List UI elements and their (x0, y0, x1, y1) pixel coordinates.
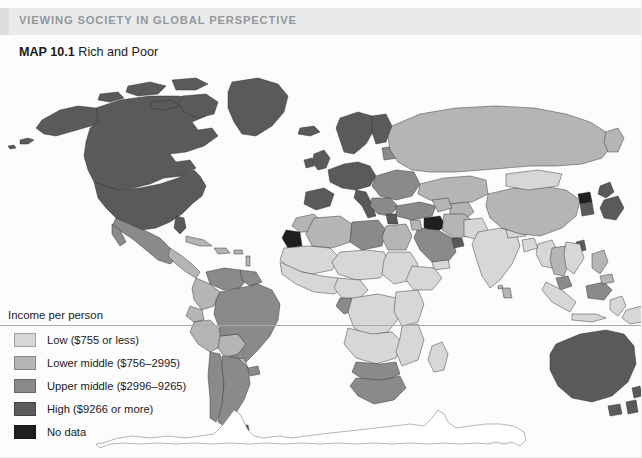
region-hispaniola (214, 248, 230, 254)
region-malaysia (556, 276, 572, 290)
region-mongolia (506, 170, 562, 190)
region-bangladesh (522, 238, 538, 252)
region-united-kingdom (312, 150, 330, 170)
region-mozambique-tanzania (396, 324, 424, 366)
region-malaysia-borneo (586, 282, 612, 300)
legend-label-lower-middle: Lower middle ($756–2995) (47, 357, 180, 369)
region-scandinavia (336, 112, 374, 154)
legend-label-upper-middle: Upper middle ($2996–9265) (47, 380, 186, 392)
region-algeria (306, 216, 352, 248)
region-philippines-south (600, 274, 614, 284)
map-number: MAP 10.1 (19, 45, 75, 59)
legend-item-lower-middle: Lower middle ($756–2995) (8, 351, 223, 374)
region-western-europe (328, 162, 376, 190)
map-legend: Income per person Low ($755 or less) Low… (8, 309, 223, 443)
legend-swatch-no-data (14, 425, 36, 439)
region-caucasus (432, 198, 452, 212)
region-japan-honshu (600, 196, 624, 220)
region-madagascar (428, 342, 448, 372)
region-south-africa (350, 376, 406, 404)
world-map: Income per person Low ($755 or less) Low… (0, 66, 642, 458)
legend-swatch-upper-middle (14, 379, 36, 393)
region-philippines (592, 250, 608, 274)
region-greenland (228, 78, 288, 136)
region-indonesia-sulawesi (610, 296, 626, 316)
region-uruguay (248, 366, 260, 376)
region-yemen (432, 260, 450, 270)
legend-item-no-data: No data (8, 420, 223, 443)
region-israel-levant (410, 220, 422, 230)
region-cuba (186, 236, 212, 246)
map-name-text: Rich and Poor (78, 45, 158, 59)
region-puerto-rico (234, 250, 243, 254)
region-egypt (382, 224, 412, 250)
region-vietnam-laos (564, 242, 584, 274)
legend-label-low: Low ($755 or less) (47, 334, 139, 346)
legend-heading: Income per person (8, 309, 223, 321)
region-eastern-europe (372, 170, 420, 200)
region-japan (598, 182, 614, 198)
region-iberia (304, 188, 334, 210)
legend-swatch-low (14, 333, 36, 347)
region-canada-arctic-2 (172, 78, 208, 90)
region-ireland (304, 158, 314, 168)
legend-swatch-lower-middle (14, 356, 36, 370)
region-canada-arctic-1 (126, 82, 166, 96)
region-lesser-antilles (246, 256, 250, 266)
region-iceland (298, 126, 320, 136)
header-band-accent-tab (0, 8, 9, 35)
region-new-zealand-south (626, 400, 638, 414)
region-russia (388, 106, 612, 172)
map-figure-page: VIEWING SOCIETY IN GLOBAL PERSPECTIVE MA… (0, 0, 642, 458)
region-central-asia (418, 176, 488, 204)
region-drc (348, 294, 400, 336)
region-sri-lanka (502, 288, 512, 298)
map-title: MAP 10.1 Rich and Poor (19, 45, 158, 59)
legend-item-high: High ($9266 or more) (8, 397, 223, 420)
region-libya (350, 220, 386, 250)
region-gulf-states (452, 238, 464, 248)
region-east-africa (394, 290, 424, 326)
section-header-title: VIEWING SOCIETY IN GLOBAL PERSPECTIVE (19, 14, 297, 26)
region-tasmania (608, 404, 622, 416)
region-florida (174, 216, 186, 234)
region-western-sahara (282, 230, 302, 248)
region-papua-new-guinea (622, 306, 642, 324)
legend-item-low: Low ($755 or less) (8, 328, 223, 351)
region-new-zealand-north (632, 386, 642, 398)
region-aleutians (20, 138, 34, 144)
region-indonesia-java (572, 314, 606, 322)
legend-label-no-data: No data (47, 426, 86, 438)
region-south-korea (580, 202, 594, 216)
region-central-america (168, 248, 200, 278)
region-niger-chad (332, 250, 390, 280)
legend-item-upper-middle: Upper middle ($2996–9265) (8, 374, 223, 397)
legend-label-high: High ($9266 or more) (47, 403, 153, 415)
region-australia (550, 330, 636, 402)
region-aleutian-islet (8, 145, 16, 149)
legend-swatch-high (14, 402, 36, 416)
region-kamchatka (604, 128, 624, 152)
